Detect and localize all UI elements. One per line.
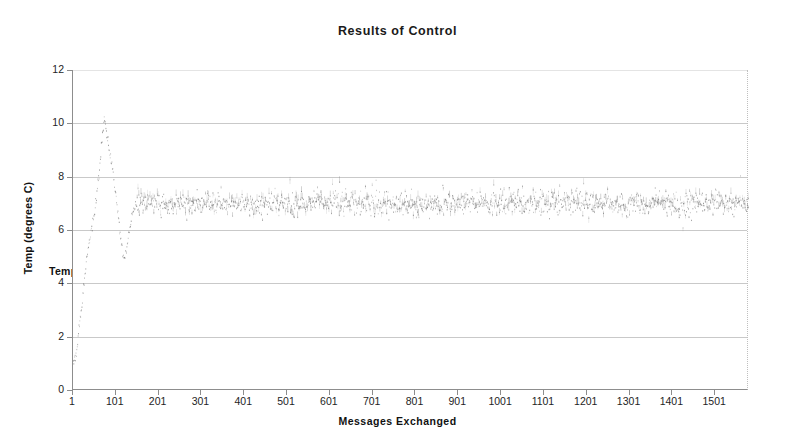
x-tick-mark-1301 bbox=[629, 390, 630, 395]
x-tick-mark-501 bbox=[286, 390, 287, 395]
x-tick-mark-301 bbox=[200, 390, 201, 395]
x-tick-mark-1201 bbox=[586, 390, 587, 395]
chart-title: Results of Control bbox=[0, 24, 795, 38]
chart-figure: Results of Control Temp (degrees C) Mess… bbox=[0, 0, 795, 444]
x-tick-mark-201 bbox=[158, 390, 159, 395]
x-tick-mark-1501 bbox=[714, 390, 715, 395]
x-tick-mark-1101 bbox=[543, 390, 544, 395]
x-tick-mark-101 bbox=[115, 390, 116, 395]
x-tick-mark-601 bbox=[329, 390, 330, 395]
data-series-temp bbox=[73, 70, 749, 390]
x-tick-mark-1401 bbox=[671, 390, 672, 395]
x-tick-mark-1 bbox=[72, 390, 73, 395]
y-tick-label-8: 8 bbox=[24, 171, 64, 182]
plot-area bbox=[72, 70, 748, 390]
y-tick-label-4: 4 bbox=[24, 277, 64, 288]
x-tick-mark-401 bbox=[243, 390, 244, 395]
y-tick-label-12: 12 bbox=[24, 64, 64, 75]
x-tick-mark-901 bbox=[457, 390, 458, 395]
x-tick-mark-801 bbox=[414, 390, 415, 395]
y-tick-label-6: 6 bbox=[24, 224, 64, 235]
y-tick-label-0: 0 bbox=[24, 384, 64, 395]
x-tick-mark-1001 bbox=[500, 390, 501, 395]
y-tick-label-2: 2 bbox=[24, 331, 64, 342]
x-tick-label-1501: 1501 bbox=[684, 396, 744, 407]
y-tick-label-10: 10 bbox=[24, 117, 64, 128]
x-axis-title: Messages Exchanged bbox=[0, 415, 795, 427]
x-tick-mark-701 bbox=[372, 390, 373, 395]
